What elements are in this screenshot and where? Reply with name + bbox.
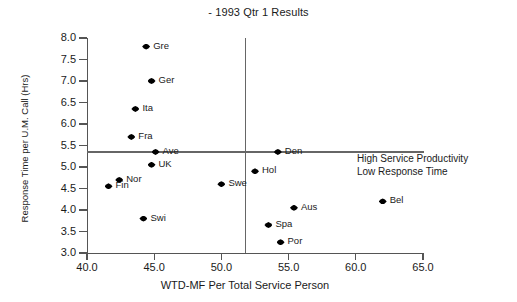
x-tick-label: 45.0 <box>129 261 179 273</box>
annotation-line-2: Low Response Time <box>357 165 468 178</box>
data-point-label: Den <box>285 145 302 156</box>
y-tick-mark <box>79 209 87 210</box>
y-tick-label-wrap: 8.0 <box>14 31 76 43</box>
y-tick-mark <box>79 188 87 189</box>
y-tick-mark <box>79 59 87 60</box>
diamond-marker-icon <box>105 183 113 189</box>
diamond-marker-icon <box>379 198 387 204</box>
x-tick-mark <box>86 253 87 260</box>
x-tick-mark <box>154 253 155 260</box>
y-axis-line <box>87 38 88 254</box>
y-tick-label-wrap: 5.5 <box>14 139 76 151</box>
y-tick-label: 5.0 <box>16 160 76 172</box>
data-point-label: UK <box>159 158 172 169</box>
y-tick-label-wrap: 4.0 <box>14 203 76 215</box>
x-axis-line <box>87 253 424 254</box>
data-point-label: Por <box>288 235 303 246</box>
data-point-label: Fin <box>116 179 129 190</box>
y-tick-label-wrap: 7.0 <box>14 74 76 86</box>
y-tick-label-wrap: 3.5 <box>14 225 76 237</box>
data-point-label: Fra <box>138 130 152 141</box>
x-tick-label: 55.0 <box>264 261 314 273</box>
data-point-label: Hol <box>262 164 276 175</box>
diamond-marker-icon <box>277 239 285 245</box>
data-point-label: Gre <box>153 40 169 51</box>
y-tick-mark <box>79 231 87 232</box>
y-tick-label-wrap: 6.5 <box>14 96 76 108</box>
chart-title: - 1993 Qtr 1 Results <box>0 6 517 18</box>
scatter-chart: - 1993 Qtr 1 Results Response Time per U… <box>0 0 517 302</box>
x-axis-title: WTD-MF Per Total Service Person <box>0 279 490 291</box>
x-tick-mark <box>288 253 289 260</box>
data-point-label: Swi <box>150 212 165 223</box>
vertical-reference-line <box>245 38 246 253</box>
quadrant-annotation: High Service Productivity Low Response T… <box>357 152 468 178</box>
y-tick-mark <box>79 166 87 167</box>
diamond-marker-icon <box>148 78 156 84</box>
y-tick-label: 7.5 <box>16 53 76 65</box>
diamond-marker-icon <box>217 181 225 187</box>
y-tick-label-wrap: 4.5 <box>14 182 76 194</box>
y-tick-label: 3.5 <box>16 225 76 237</box>
x-tick-mark <box>422 253 423 260</box>
y-tick-label-wrap: 6.0 <box>14 117 76 129</box>
diamond-marker-icon <box>264 222 272 228</box>
annotation-line-1: High Service Productivity <box>357 152 468 165</box>
y-tick-label-wrap: 3.0 <box>14 246 76 258</box>
y-tick-label: 3.0 <box>16 246 76 258</box>
diamond-marker-icon <box>251 168 259 174</box>
y-tick-label-wrap: 5.0 <box>14 160 76 172</box>
y-tick-mark <box>79 145 87 146</box>
y-tick-label: 6.0 <box>16 117 76 129</box>
diamond-marker-icon <box>290 205 298 211</box>
diamond-marker-icon <box>139 216 147 222</box>
x-tick-mark <box>355 253 356 260</box>
data-point-label: Bel <box>390 194 404 205</box>
diamond-marker-icon <box>152 149 160 155</box>
diamond-marker-icon <box>274 149 282 155</box>
diamond-marker-icon <box>127 134 135 140</box>
data-point-label: Swe <box>228 177 246 188</box>
data-point-label: Spa <box>275 218 292 229</box>
y-tick-mark <box>79 123 87 124</box>
y-tick-label: 6.5 <box>16 96 76 108</box>
y-tick-label-wrap: 7.5 <box>14 53 76 65</box>
diamond-marker-icon <box>131 106 139 112</box>
y-tick-label: 8.0 <box>16 31 76 43</box>
y-tick-label: 7.0 <box>16 74 76 86</box>
y-tick-mark <box>79 37 87 38</box>
data-point-label: Ger <box>159 74 175 85</box>
data-point-label: Aus <box>301 201 317 212</box>
data-point-label: Ave <box>163 145 179 156</box>
x-tick-label: 60.0 <box>331 261 381 273</box>
y-tick-label: 4.0 <box>16 203 76 215</box>
x-tick-label: 40.0 <box>62 261 112 273</box>
diamond-marker-icon <box>142 44 150 50</box>
y-tick-label: 5.5 <box>16 139 76 151</box>
x-tick-label: 50.0 <box>196 261 246 273</box>
data-point-label: Ita <box>142 102 153 113</box>
y-tick-label: 4.5 <box>16 182 76 194</box>
x-tick-mark <box>221 253 222 260</box>
y-tick-mark <box>79 80 87 81</box>
y-tick-mark <box>79 102 87 103</box>
diamond-marker-icon <box>148 162 156 168</box>
x-tick-label: 65.0 <box>398 261 448 273</box>
